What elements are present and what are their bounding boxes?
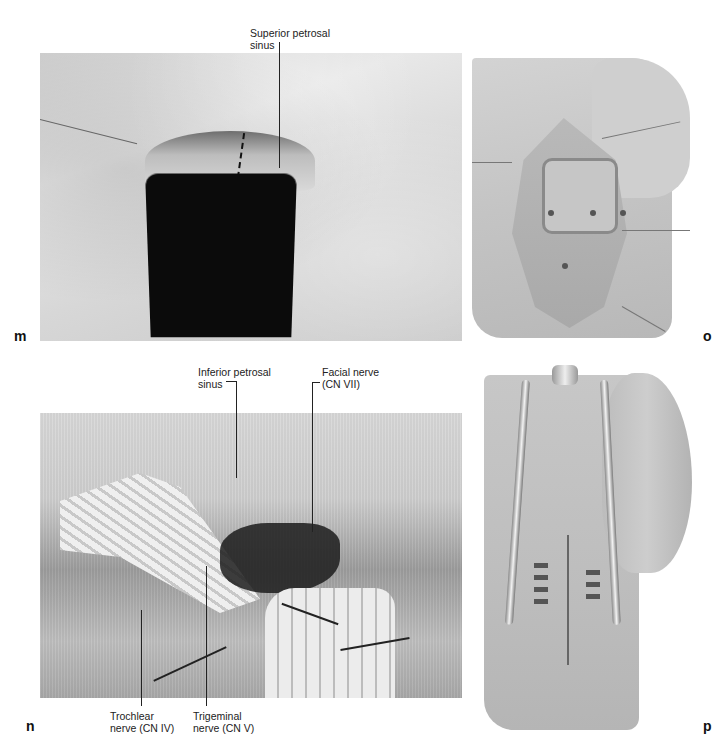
label-line: Inferior petrosal	[198, 366, 271, 378]
leader-line	[236, 381, 237, 478]
retractor-tooth	[586, 570, 600, 575]
label-line: nerve (CN V)	[193, 722, 254, 734]
retractor-tooth	[586, 594, 600, 599]
panel-n-photo	[40, 413, 462, 698]
panel-m-photo	[40, 53, 462, 341]
bone-flap-plate	[542, 158, 618, 234]
retractor-tooth	[534, 599, 548, 604]
label-line: Facial nerve	[322, 366, 379, 378]
retractor-tooth	[586, 582, 600, 587]
panel-letter-n: n	[26, 718, 35, 734]
leader-line	[312, 382, 320, 383]
label-line: sinus	[198, 378, 271, 390]
panel-letter-p: p	[703, 718, 712, 734]
retractor-hinge	[552, 365, 578, 385]
retractor-tooth	[534, 575, 548, 580]
petrosal-sinus-cavity	[220, 523, 340, 593]
retractor-tooth	[534, 587, 548, 592]
label-line: Trigeminal	[193, 710, 254, 722]
label-line: Superior petrosal	[250, 27, 330, 39]
leader-line	[206, 566, 207, 706]
screw-icon	[620, 210, 626, 216]
retractor-tooth	[534, 563, 548, 568]
panel-o-photo	[472, 58, 690, 340]
screw-icon	[590, 210, 596, 216]
label-superior-petrosal-sinus: Superior petrosal sinus	[250, 27, 330, 51]
leader-line	[312, 382, 313, 532]
suture-wire	[472, 162, 512, 163]
panel-p-photo	[472, 365, 692, 735]
panel-letter-m: m	[14, 328, 26, 344]
leader-line	[279, 42, 280, 168]
leader-line	[226, 381, 236, 382]
leader-line	[141, 610, 142, 706]
label-line: nerve (CN IV)	[110, 722, 174, 734]
panel-letter-o: o	[703, 328, 712, 344]
label-inferior-petrosal-sinus: Inferior petrosal sinus	[198, 366, 271, 390]
label-line: (CN VII)	[322, 378, 379, 390]
screw-icon	[562, 263, 568, 269]
screw-icon	[548, 210, 554, 216]
label-facial-nerve: Facial nerve (CN VII)	[322, 366, 379, 390]
label-trochlear-nerve: Trochlear nerve (CN IV)	[110, 710, 174, 734]
label-line: sinus	[250, 39, 330, 51]
label-trigeminal-nerve: Trigeminal nerve (CN V)	[193, 710, 254, 734]
label-line: Trochlear	[110, 710, 174, 722]
closed-incision	[567, 535, 569, 665]
suture-wire	[622, 230, 690, 231]
brain-retractor	[145, 174, 297, 338]
